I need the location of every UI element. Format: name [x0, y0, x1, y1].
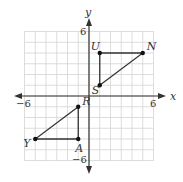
point-a [76, 137, 80, 141]
y-axis-up-arrow-icon [86, 18, 92, 26]
x-tick-max: 6 [150, 98, 156, 109]
point-label-u: U [91, 40, 101, 53]
x-tick-min: −6 [16, 98, 31, 109]
point-label-n: N [146, 40, 157, 53]
point-label-r: R [81, 95, 90, 108]
x-axis-label: x [170, 90, 177, 103]
point-r [76, 105, 80, 109]
y-axis-down-arrow-icon [86, 166, 92, 174]
x-axis-right-arrow-icon [158, 93, 166, 99]
point-label-a: A [74, 142, 83, 155]
point-y [33, 137, 37, 141]
y-tick-max: 6 [80, 26, 86, 37]
point-label-s: S [92, 84, 100, 97]
coordinate-plane-figure: x y −6 6 6 −6 UNSRAY [0, 0, 183, 182]
point-n [141, 51, 145, 55]
y-axis-label: y [84, 6, 92, 19]
y-tick-min: −6 [72, 154, 87, 165]
